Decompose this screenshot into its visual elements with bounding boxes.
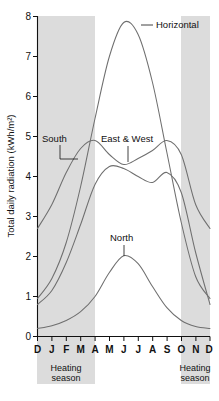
heating-season-left-line2: season [51, 373, 80, 383]
y-tick-label-6: 6 [25, 91, 31, 102]
x-tick-label-7: J [136, 344, 142, 355]
x-tick-label-1: J [49, 344, 55, 355]
y-tick-label-5: 5 [25, 131, 31, 142]
series-label-horizontal: Horizontal [156, 19, 199, 30]
x-tick-label-9: S [164, 344, 171, 355]
series-label-north: North [110, 232, 133, 243]
x-tick-label-8: A [149, 344, 156, 355]
y-tick-label-7: 7 [25, 51, 31, 62]
x-tick-label-3: M [77, 344, 85, 355]
y-tick-label-3: 3 [25, 211, 31, 222]
x-tick-label-11: N [192, 344, 199, 355]
x-tick-label-10: O [178, 344, 186, 355]
x-tick-label-4: A [91, 344, 98, 355]
heating-season-right-line2: season [180, 373, 209, 383]
x-tick-label-6: J [121, 344, 127, 355]
x-tick-label-0: D [34, 344, 41, 355]
x-tick-label-2: F [63, 344, 69, 355]
series-label-south: South [42, 133, 67, 144]
y-tick-label-1: 1 [25, 291, 31, 302]
series-label-east-and-west: East & West [101, 133, 153, 144]
y-tick-label-4: 4 [25, 171, 31, 182]
y-tick-label-0: 0 [25, 331, 31, 342]
y-axis-tick-labels: 0 1 2 3 4 5 6 7 8 [25, 11, 31, 342]
y-tick-label-2: 2 [25, 251, 31, 262]
x-tick-label-12: D [205, 344, 212, 355]
x-tick-label-5: M [105, 344, 113, 355]
heating-season-left-line1: Heating [50, 363, 81, 373]
heating-season-right-line1: Heating [179, 363, 210, 373]
y-tick-label-8: 8 [25, 11, 31, 22]
y-axis-title: Total daily radiation (kWh/m²) [5, 114, 16, 237]
solar-radiation-chart: 0 1 2 3 4 5 6 7 8 D [0, 0, 219, 401]
chart-canvas: 0 1 2 3 4 5 6 7 8 D [0, 0, 219, 401]
